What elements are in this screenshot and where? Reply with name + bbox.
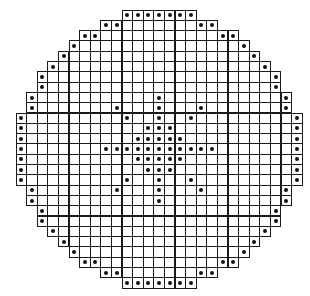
boundary-dot-icon (284, 106, 288, 110)
boundary-dot-icon (19, 137, 23, 141)
boundary-dot-icon (295, 178, 299, 182)
boundary-dot-icon (19, 178, 23, 182)
star-dot-icon (136, 147, 140, 151)
boundary-dot-icon (146, 13, 150, 17)
boundary-dot-icon (221, 34, 225, 38)
boundary-dot-icon (125, 281, 129, 285)
boundary-dot-icon (83, 260, 87, 264)
star-dot-icon (157, 116, 161, 120)
grid-cell (281, 195, 293, 206)
star-dot-icon (136, 157, 140, 161)
boundary-dot-icon (51, 65, 55, 69)
star-dot-icon (157, 168, 161, 172)
boundary-dot-icon (104, 23, 108, 27)
boundary-dot-icon (104, 271, 108, 275)
boundary-dot-icon (263, 229, 267, 233)
star-dot-icon (168, 126, 172, 130)
boundary-dot-icon (40, 219, 44, 223)
boundary-dot-icon (62, 54, 66, 58)
star-dot-icon (168, 137, 172, 141)
star-dot-icon (189, 116, 193, 120)
star-dot-icon (189, 178, 193, 182)
grid-cell (228, 257, 240, 268)
boundary-dot-icon (115, 23, 119, 27)
boundary-dot-icon (19, 168, 23, 172)
star-dot-icon (157, 157, 161, 161)
star-dot-icon (115, 106, 119, 110)
boundary-dot-icon (199, 23, 203, 27)
boundary-dot-icon (157, 281, 161, 285)
boundary-dot-icon (19, 116, 23, 120)
boundary-dot-icon (168, 281, 172, 285)
star-dot-icon (146, 147, 150, 151)
boundary-dot-icon (62, 240, 66, 244)
star-dot-icon (189, 147, 193, 151)
star-dot-icon (125, 147, 129, 151)
boundary-dot-icon (157, 13, 161, 17)
star-dot-icon (146, 168, 150, 172)
boundary-dot-icon (30, 106, 34, 110)
star-dot-icon (168, 147, 172, 151)
star-dot-icon (157, 147, 161, 151)
star-dot-icon (199, 188, 203, 192)
boundary-dot-icon (30, 188, 34, 192)
star-dot-icon (125, 178, 129, 182)
star-dot-icon (199, 147, 203, 151)
grid-cell (291, 174, 303, 185)
grid-cell (238, 246, 250, 257)
star-dot-icon (210, 147, 214, 151)
star-dot-icon (178, 157, 182, 161)
boundary-dot-icon (284, 96, 288, 100)
star-dot-icon (136, 137, 140, 141)
boundary-dot-icon (51, 229, 55, 233)
boundary-dot-icon (231, 34, 235, 38)
boundary-dot-icon (242, 44, 246, 48)
boundary-dot-icon (178, 281, 182, 285)
boundary-dot-icon (221, 260, 225, 264)
boundary-dot-icon (295, 168, 299, 172)
star-dot-icon (146, 137, 150, 141)
boundary-dot-icon (210, 271, 214, 275)
boundary-dot-icon (263, 65, 267, 69)
boundary-dot-icon (252, 54, 256, 58)
dot-grid-circle (16, 10, 302, 288)
grid-cell (185, 277, 197, 288)
boundary-dot-icon (295, 126, 299, 130)
boundary-dot-icon (252, 240, 256, 244)
grid-cell (206, 267, 218, 278)
boundary-dot-icon (168, 13, 172, 17)
star-dot-icon (157, 188, 161, 192)
star-dot-icon (157, 106, 161, 110)
star-dot-icon (178, 147, 182, 151)
boundary-dot-icon (136, 13, 140, 17)
boundary-dot-icon (231, 260, 235, 264)
boundary-dot-icon (125, 13, 129, 17)
star-dot-icon (199, 106, 203, 110)
star-dot-icon (157, 96, 161, 100)
boundary-dot-icon (242, 250, 246, 254)
boundary-dot-icon (72, 250, 76, 254)
boundary-dot-icon (136, 281, 140, 285)
star-dot-icon (146, 126, 150, 130)
star-dot-icon (157, 199, 161, 203)
boundary-dot-icon (295, 157, 299, 161)
star-dot-icon (115, 188, 119, 192)
boundary-dot-icon (93, 34, 97, 38)
star-dot-icon (168, 157, 172, 161)
star-dot-icon (157, 178, 161, 182)
boundary-dot-icon (274, 209, 278, 213)
star-dot-icon (115, 147, 119, 151)
boundary-dot-icon (284, 199, 288, 203)
star-dot-icon (178, 137, 182, 141)
grid-cell (249, 236, 261, 247)
boundary-dot-icon (189, 281, 193, 285)
boundary-dot-icon (210, 23, 214, 27)
boundary-dot-icon (40, 209, 44, 213)
boundary-dot-icon (40, 85, 44, 89)
boundary-dot-icon (30, 199, 34, 203)
boundary-dot-icon (72, 44, 76, 48)
boundary-dot-icon (295, 137, 299, 141)
star-dot-icon (168, 168, 172, 172)
boundary-dot-icon (274, 219, 278, 223)
boundary-dot-icon (40, 75, 44, 79)
